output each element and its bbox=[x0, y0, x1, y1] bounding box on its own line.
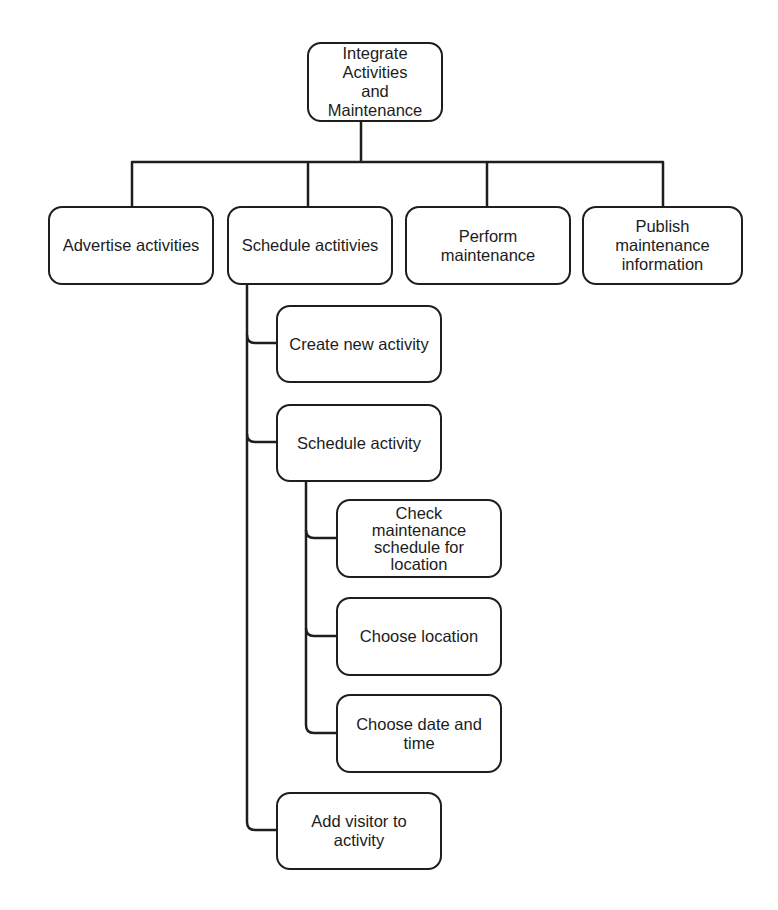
node-label: Create new activity bbox=[289, 335, 428, 354]
branch-create bbox=[247, 335, 276, 343]
node-label: Add visitor to activity bbox=[311, 812, 406, 850]
node-choose-location: Choose location bbox=[336, 597, 502, 676]
node-label: Choose location bbox=[360, 627, 478, 646]
schedule-spine bbox=[247, 284, 276, 830]
node-label: Check maintenance schedule for location bbox=[372, 505, 466, 573]
node-label: Advertise activities bbox=[63, 236, 200, 255]
node-label: Choose date and time bbox=[356, 715, 482, 753]
node-root: Integrate Activities and Maintenance bbox=[307, 42, 443, 122]
node-advertise-activities: Advertise activities bbox=[48, 206, 214, 285]
node-perform-maintenance: Perform maintenance bbox=[405, 206, 571, 285]
node-schedule-activity: Schedule activity bbox=[276, 404, 442, 482]
node-choose-date-and-time: Choose date and time bbox=[336, 694, 502, 773]
level1-bus bbox=[132, 162, 663, 206]
node-schedule-activities: Schedule actitivies bbox=[227, 206, 393, 285]
schedule-activity-spine bbox=[306, 481, 336, 733]
node-add-visitor-to-activity: Add visitor to activity bbox=[276, 792, 442, 870]
node-label: Perform maintenance bbox=[441, 227, 535, 265]
node-label: Schedule actitivies bbox=[242, 236, 379, 255]
node-root-label: Integrate Activities and Maintenance bbox=[315, 44, 435, 120]
branch-schedule-activity bbox=[247, 434, 276, 442]
node-create-new-activity: Create new activity bbox=[276, 305, 442, 383]
node-label: Schedule activity bbox=[297, 434, 421, 453]
node-publish-maintenance-information: Publish maintenance information bbox=[582, 206, 743, 285]
branch-check bbox=[306, 530, 336, 538]
node-check-maintenance-schedule: Check maintenance schedule for location bbox=[336, 499, 502, 578]
node-label: Publish maintenance information bbox=[615, 217, 709, 274]
branch-choose-location bbox=[306, 628, 336, 636]
